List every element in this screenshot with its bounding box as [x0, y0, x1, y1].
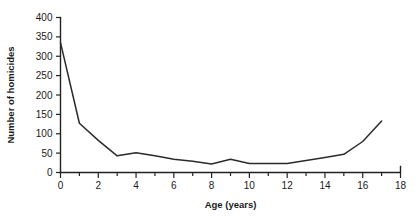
y-axis-tick-labels: 050100150200250300350400 — [36, 12, 53, 178]
y-axis-tick-label: 100 — [36, 128, 53, 139]
x-axis-tick-marks — [61, 173, 401, 179]
y-axis-group: 050100150200250300350400 — [36, 12, 61, 178]
x-axis-tick-label: 14 — [319, 180, 331, 191]
x-axis-tick-label: 16 — [357, 180, 369, 191]
x-axis-tick-label: 10 — [244, 180, 256, 191]
x-axis-tick-labels: 024681012141618 — [58, 180, 407, 191]
x-axis-title: Age (years) — [205, 199, 257, 210]
y-axis-tick-label: 300 — [36, 51, 53, 62]
chart-canvas: 050100150200250300350400 024681012141618… — [0, 0, 417, 222]
y-axis-tick-label: 0 — [47, 167, 53, 178]
y-axis-tick-label: 150 — [36, 109, 53, 120]
x-axis-tick-label: 4 — [133, 180, 139, 191]
y-axis-tick-label: 250 — [36, 70, 53, 81]
x-axis-tick-label: 8 — [209, 180, 215, 191]
homicides-by-age-line-chart: 050100150200250300350400 024681012141618… — [0, 0, 417, 222]
x-axis-tick-label: 12 — [282, 180, 294, 191]
homicides-data-line — [61, 43, 382, 164]
x-axis-tick-label: 18 — [395, 180, 407, 191]
x-axis-line — [61, 167, 401, 173]
y-axis-tick-label: 50 — [41, 148, 53, 159]
x-axis-tick-label: 0 — [58, 180, 64, 191]
x-axis-tick-label: 2 — [95, 180, 101, 191]
y-axis-title: Number of homicides — [5, 46, 16, 143]
y-axis-tick-label: 400 — [36, 12, 53, 23]
y-axis-tick-label: 350 — [36, 31, 53, 42]
x-axis-tick-label: 6 — [171, 180, 177, 191]
x-axis-group: 024681012141618 — [58, 167, 407, 191]
y-axis-tick-label: 200 — [36, 90, 53, 101]
